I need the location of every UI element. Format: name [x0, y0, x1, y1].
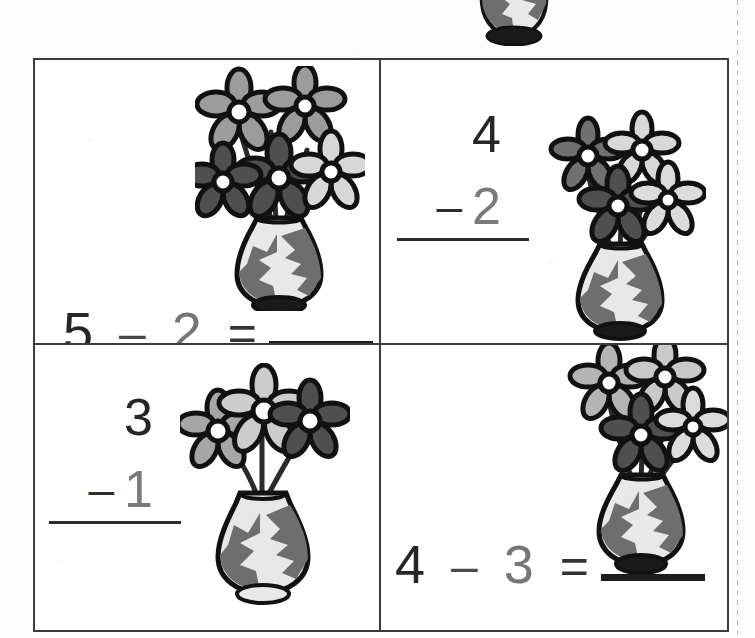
- equation-3: 3 – 1: [49, 391, 181, 524]
- equals-sign-1: =: [228, 308, 257, 345]
- vase: [218, 493, 308, 603]
- answer-rule-2[interactable]: [397, 238, 529, 241]
- flower: [631, 162, 705, 238]
- subtrahend-4: 3: [504, 537, 534, 591]
- equation-1: 5 – 2 =: [63, 304, 373, 345]
- minus-sign-4: –: [451, 543, 478, 591]
- minuend-3: 3: [49, 391, 181, 443]
- answer-rule-3[interactable]: [49, 521, 181, 524]
- equation-4: 4 – 3 =: [395, 537, 705, 591]
- vase: [578, 244, 662, 339]
- vase-illustration-1: [195, 66, 365, 311]
- subtrahend-1: 2: [172, 304, 202, 345]
- vase-illustration-3: [180, 363, 350, 613]
- equals-sign-4: =: [560, 541, 589, 591]
- problem-cell-3[interactable]: 3 – 1: [35, 345, 381, 630]
- vase-illustration-partial: [466, 0, 562, 46]
- worksheet-grid: 5 – 2 =: [33, 58, 729, 632]
- problem-cell-1[interactable]: 5 – 2 =: [35, 60, 381, 345]
- minus-sign-1: –: [119, 310, 146, 345]
- minuend-2: 4: [397, 108, 529, 160]
- minus-sign-2: –: [436, 183, 462, 229]
- subtrahend-3: 1: [124, 463, 153, 515]
- minuend-4: 4: [395, 537, 425, 591]
- answer-blank-4[interactable]: [601, 574, 705, 581]
- top-partial-vase-image: [466, 0, 562, 46]
- vase: [237, 218, 321, 311]
- equation-2: 4 – 2: [397, 108, 529, 241]
- problem-cell-4[interactable]: 4 – 3 =: [381, 345, 727, 630]
- problem-cell-2[interactable]: 4 – 2: [381, 60, 727, 345]
- vase-illustration-2: [546, 108, 706, 343]
- subtrahend-2: 2: [472, 180, 501, 232]
- page-perforation-line: [737, 0, 738, 638]
- minus-sign-3: –: [88, 466, 114, 512]
- minuend-1: 5: [63, 304, 93, 345]
